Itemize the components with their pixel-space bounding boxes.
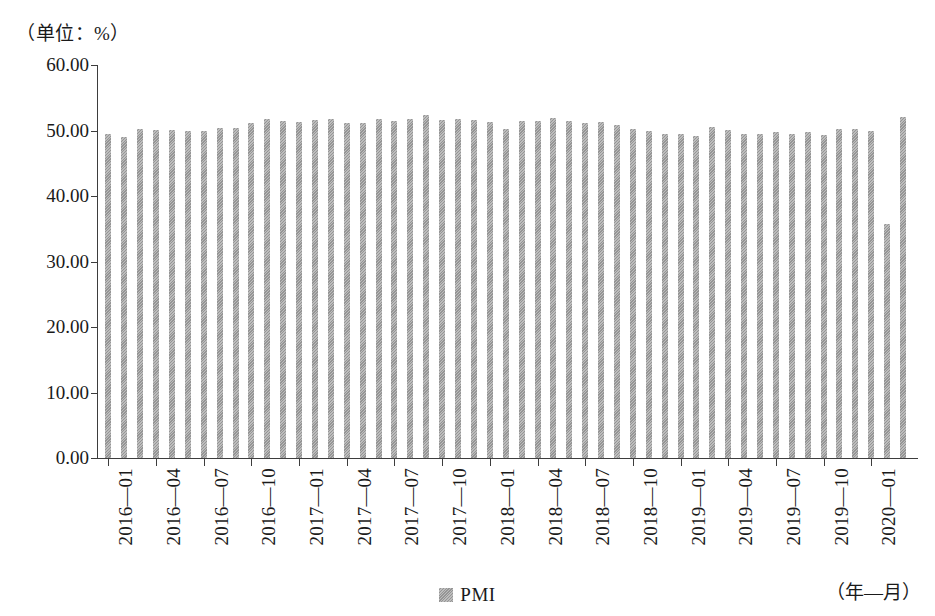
bar bbox=[360, 123, 366, 458]
bar bbox=[201, 131, 207, 458]
x-axis-tick-label: 2016—10 bbox=[258, 468, 280, 545]
x-axis-tick-mark bbox=[728, 458, 729, 466]
bar bbox=[693, 136, 699, 458]
bar bbox=[789, 134, 795, 458]
x-axis-tick-label: 2017—04 bbox=[354, 468, 376, 545]
bar bbox=[805, 132, 811, 458]
y-axis-tick-label: 10.00 bbox=[46, 382, 89, 404]
y-axis-tick-mark bbox=[91, 262, 97, 263]
bar bbox=[519, 121, 525, 458]
x-axis-tick-mark bbox=[681, 458, 682, 466]
bar bbox=[773, 132, 779, 458]
legend-swatch-pmi bbox=[439, 588, 453, 602]
x-axis-tick-mark bbox=[442, 458, 443, 466]
bar bbox=[630, 129, 636, 458]
bar bbox=[328, 119, 334, 458]
bar bbox=[614, 125, 620, 458]
bar bbox=[312, 120, 318, 458]
x-axis-tick-label: 2019—07 bbox=[783, 468, 805, 545]
x-axis-tick-label: 2019—01 bbox=[688, 468, 710, 545]
bar bbox=[105, 134, 111, 458]
x-axis-tick-label: 2020—01 bbox=[878, 468, 900, 545]
x-axis-tick-label: 2018—01 bbox=[497, 468, 519, 545]
x-axis-tick-label: 2018—04 bbox=[545, 468, 567, 545]
x-axis-tick-mark bbox=[776, 458, 777, 466]
chart-figure: （单位：%） 0.0010.0020.0030.0040.0050.0060.0… bbox=[0, 0, 935, 616]
chart-legend: PMI bbox=[0, 584, 935, 606]
x-axis-tick-marks bbox=[97, 458, 917, 466]
x-axis-tick-mark bbox=[108, 458, 109, 466]
y-axis-tick-label: 50.00 bbox=[46, 120, 89, 142]
x-axis-tick-label: 2017—01 bbox=[306, 468, 328, 545]
bar bbox=[741, 134, 747, 458]
bar bbox=[121, 137, 127, 458]
bar bbox=[582, 123, 588, 458]
x-axis-tick-mark bbox=[871, 458, 872, 466]
bar bbox=[439, 120, 445, 458]
bar bbox=[233, 128, 239, 458]
bar bbox=[535, 121, 541, 458]
bar bbox=[296, 122, 302, 458]
bar bbox=[662, 134, 668, 458]
y-axis-tick-mark bbox=[91, 393, 97, 394]
x-axis-tick-label: 2017—07 bbox=[401, 468, 423, 545]
bar bbox=[725, 130, 731, 458]
bar bbox=[900, 117, 906, 458]
bar bbox=[407, 119, 413, 458]
y-axis-tick-label: 60.00 bbox=[46, 54, 89, 76]
y-axis-tick-mark bbox=[91, 327, 97, 328]
y-axis-tick-mark bbox=[91, 458, 97, 459]
x-axis-tick-mark bbox=[824, 458, 825, 466]
x-axis-tick-label: 2016—01 bbox=[115, 468, 137, 545]
x-axis-tick-mark bbox=[585, 458, 586, 466]
bar bbox=[471, 120, 477, 458]
x-axis-tick-label: 2018—07 bbox=[592, 468, 614, 545]
bar bbox=[280, 121, 286, 458]
bar bbox=[487, 122, 493, 458]
y-axis-tick-label: 40.00 bbox=[46, 185, 89, 207]
bar bbox=[248, 123, 254, 458]
bar bbox=[821, 135, 827, 458]
bar bbox=[709, 127, 715, 458]
x-axis-tick-label: 2019—10 bbox=[831, 468, 853, 545]
bar bbox=[852, 129, 858, 458]
y-axis-tick-mark bbox=[91, 131, 97, 132]
x-axis-tick-label: 2016—07 bbox=[211, 468, 233, 545]
bar bbox=[264, 119, 270, 458]
x-axis-tick-mark bbox=[633, 458, 634, 466]
bar bbox=[646, 131, 652, 459]
bar bbox=[153, 130, 159, 458]
bar bbox=[344, 123, 350, 458]
bar bbox=[503, 129, 509, 458]
x-axis-tick-mark bbox=[299, 458, 300, 466]
x-axis-tick-mark bbox=[251, 458, 252, 466]
x-axis-tick-mark bbox=[394, 458, 395, 466]
bar bbox=[137, 129, 143, 458]
bar bbox=[836, 129, 842, 458]
bar bbox=[455, 119, 461, 458]
bar bbox=[884, 224, 890, 458]
y-axis-tick-mark bbox=[91, 65, 97, 66]
x-axis-tick-label: 2019—04 bbox=[735, 468, 757, 545]
bar bbox=[376, 119, 382, 458]
x-axis-tick-mark bbox=[347, 458, 348, 466]
bar bbox=[678, 134, 684, 458]
bar bbox=[423, 115, 429, 458]
y-axis-labels: 0.0010.0020.0030.0040.0050.0060.00 bbox=[0, 0, 89, 616]
bar bbox=[598, 122, 604, 458]
x-axis-tick-mark bbox=[538, 458, 539, 466]
bar bbox=[169, 130, 175, 458]
x-axis-tick-label: 2017—10 bbox=[449, 468, 471, 545]
x-axis-tick-label: 2016—04 bbox=[163, 468, 185, 545]
bar bbox=[391, 121, 397, 458]
plot-area bbox=[97, 65, 917, 458]
y-axis-tick-label: 0.00 bbox=[56, 447, 89, 469]
y-axis-tick-mark bbox=[91, 196, 97, 197]
bar bbox=[217, 128, 223, 458]
x-axis-tick-mark bbox=[490, 458, 491, 466]
bar bbox=[868, 131, 874, 459]
x-axis-tick-mark bbox=[156, 458, 157, 466]
bar bbox=[550, 118, 556, 458]
y-axis-tick-label: 20.00 bbox=[46, 316, 89, 338]
x-axis-tick-mark bbox=[204, 458, 205, 466]
